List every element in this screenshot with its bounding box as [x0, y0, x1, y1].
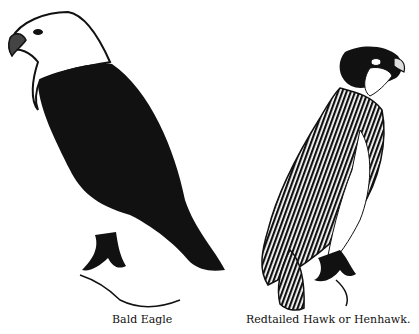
illustration-canvas: [0, 0, 419, 334]
bald-eagle-illustration: [9, 12, 225, 307]
redtailed-hawk-illustration: [262, 46, 405, 310]
hawk-caption: Redtailed Hawk or Henhawk.: [246, 313, 410, 326]
eagle-caption: Bald Eagle: [112, 313, 172, 326]
